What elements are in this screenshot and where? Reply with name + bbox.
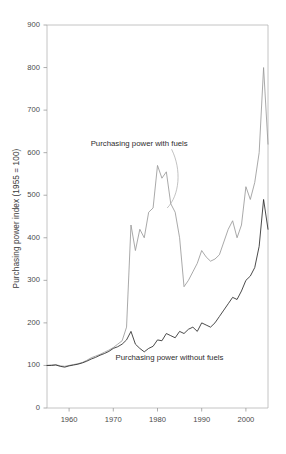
x-tick-label: 1960 xyxy=(52,415,86,424)
x-tick-label: 2000 xyxy=(229,415,263,424)
series-label-with-fuels: Purchasing power with fuels xyxy=(91,139,188,148)
y-tick-marks xyxy=(44,25,48,408)
series-label-without-fuels: Purchasing power without fuels xyxy=(116,353,224,362)
y-tick-label: 300 xyxy=(14,275,40,284)
plot-area xyxy=(0,0,286,454)
y-tick-label: 700 xyxy=(14,105,40,114)
y-tick-label: 400 xyxy=(14,233,40,242)
y-tick-label: 800 xyxy=(14,63,40,72)
y-tick-label: 0 xyxy=(14,403,40,412)
annotation-leader-line xyxy=(167,149,178,208)
chart-figure: Purchasing power index (1955 = 100) 0100… xyxy=(0,0,286,454)
x-tick-label: 1970 xyxy=(96,415,130,424)
data-series-lines xyxy=(47,68,268,368)
x-tick-label: 1990 xyxy=(185,415,219,424)
x-tick-marks xyxy=(69,408,246,412)
y-tick-label: 900 xyxy=(14,20,40,29)
y-tick-label: 200 xyxy=(14,318,40,327)
y-tick-label: 100 xyxy=(14,360,40,369)
y-tick-label: 600 xyxy=(14,148,40,157)
x-tick-label: 1980 xyxy=(141,415,175,424)
y-tick-label: 500 xyxy=(14,190,40,199)
axes-frame xyxy=(47,25,268,408)
